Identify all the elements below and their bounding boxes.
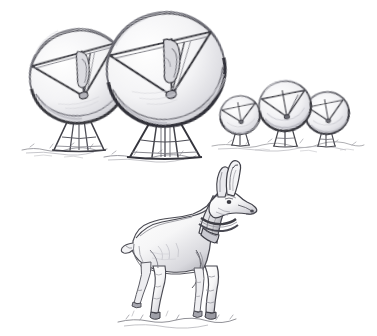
hoof-fore-near (205, 312, 216, 319)
sketch-canvas: Pencil sketch: five parabolic radio tele… (0, 0, 377, 336)
feed-horn-small-left (239, 120, 244, 125)
pencil-sketch-illustration (0, 0, 377, 336)
antelope-eye (227, 200, 232, 204)
feed-horn-small-right (326, 118, 331, 123)
hoof-hind-near (150, 312, 160, 319)
feed-horn-small-mid (284, 114, 290, 120)
antelope-nostril (250, 210, 254, 213)
